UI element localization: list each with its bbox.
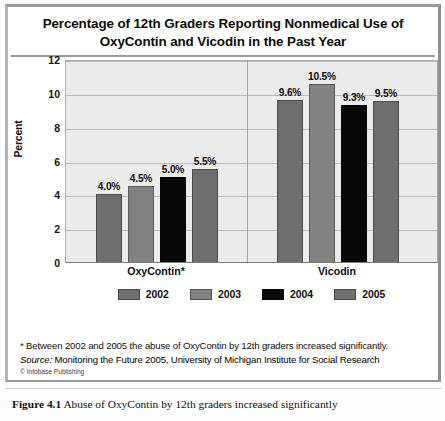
category-label-1: Vicodin	[318, 265, 356, 277]
legend-swatch-2003	[190, 289, 212, 300]
bar-vicodin-2003	[309, 84, 335, 262]
legend-swatch-2005	[334, 289, 356, 300]
bar-oxycontin-2002	[96, 194, 122, 262]
bar-value-label: 5.5%	[194, 156, 216, 167]
category-label-0: OxyContin*	[127, 265, 185, 277]
figure-page: Percentage of 12th Graders Reporting Non…	[0, 0, 445, 421]
bar-value-label: 4.5%	[130, 173, 152, 184]
bars-layer: 4.0%4.5%5.0%5.5%9.6%10.5%9.3%9.5%	[66, 61, 437, 262]
source-text: Monitoring the Future 2005, University o…	[55, 354, 380, 365]
caption-divider	[5, 388, 441, 389]
legend-swatch-2004	[262, 289, 284, 300]
legend-label-2002: 2002	[146, 289, 169, 300]
y-tick-0: 0	[54, 257, 60, 269]
chart-title: Percentage of 12th Graders Reporting Non…	[35, 15, 412, 50]
y-axis-tick-labels: 024681012	[28, 57, 60, 263]
bar-value-label: 9.6%	[279, 87, 301, 98]
y-tick-8: 8	[54, 122, 60, 134]
bar-vicodin-2002	[277, 100, 303, 262]
bar-value-label: 9.3%	[343, 92, 365, 103]
footnote-asterisk: * Between 2002 and 2005 the abuse of Oxy…	[20, 339, 440, 353]
bar-value-label: 10.5%	[308, 71, 336, 82]
legend-item-2005[interactable]: 2005	[334, 289, 385, 300]
bar-value-label: 5.0%	[162, 164, 184, 175]
chart-legend: 2002200320042005	[65, 289, 438, 300]
legend-item-2003[interactable]: 2003	[190, 289, 241, 300]
chart-title-band: Percentage of 12th Graders Reporting Non…	[11, 10, 435, 57]
plot-area: 4.0%4.5%5.0%5.5%9.6%10.5%9.3%9.5%	[65, 60, 438, 263]
legend-label-2003: 2003	[218, 289, 241, 300]
publisher-credit: © Infobase Publishing	[20, 367, 440, 377]
legend-swatch-2002	[118, 289, 140, 300]
bar-value-label: 4.0%	[98, 181, 120, 192]
figure-frame: Percentage of 12th Graders Reporting Non…	[5, 4, 441, 382]
y-tick-6: 6	[54, 156, 60, 168]
legend-label-2004: 2004	[290, 289, 313, 300]
figure-caption-text: Abuse of OxyContin by 12th graders incre…	[63, 398, 337, 410]
figure-caption: Figure 4.1 Abuse of OxyContin by 12th gr…	[12, 396, 436, 413]
y-tick-10: 10	[48, 88, 60, 100]
legend-item-2002[interactable]: 2002	[118, 289, 169, 300]
y-tick-4: 4	[54, 189, 60, 201]
bar-vicodin-2005	[373, 101, 399, 262]
bar-oxycontin-2003	[128, 186, 154, 262]
figure-number: Figure 4.1	[12, 398, 61, 410]
bar-vicodin-2004	[341, 105, 367, 262]
chart-title-line-2: OxyContin and Vicodin in the Past Year	[100, 34, 346, 49]
category-labels: OxyContin*Vicodin	[65, 265, 438, 285]
chart-notes: * Between 2002 and 2005 the abuse of Oxy…	[20, 339, 440, 377]
legend-label-2005: 2005	[362, 289, 385, 300]
y-axis-title: Percent	[12, 99, 24, 179]
bar-value-label: 9.5%	[375, 88, 397, 99]
y-tick-12: 12	[48, 54, 60, 66]
source-note: Source: Monitoring the Future 2005, Univ…	[20, 353, 440, 367]
chart-area: Percent 024681012 4.0%4.5%5.0%5.5%9.6%10…	[8, 57, 438, 307]
bar-oxycontin-2004	[160, 177, 186, 262]
source-label: Source:	[20, 354, 52, 365]
chart-title-line-1: Percentage of 12th Graders Reporting Non…	[43, 16, 404, 31]
y-tick-2: 2	[54, 223, 60, 235]
legend-item-2004[interactable]: 2004	[262, 289, 313, 300]
bar-oxycontin-2005	[192, 169, 218, 262]
